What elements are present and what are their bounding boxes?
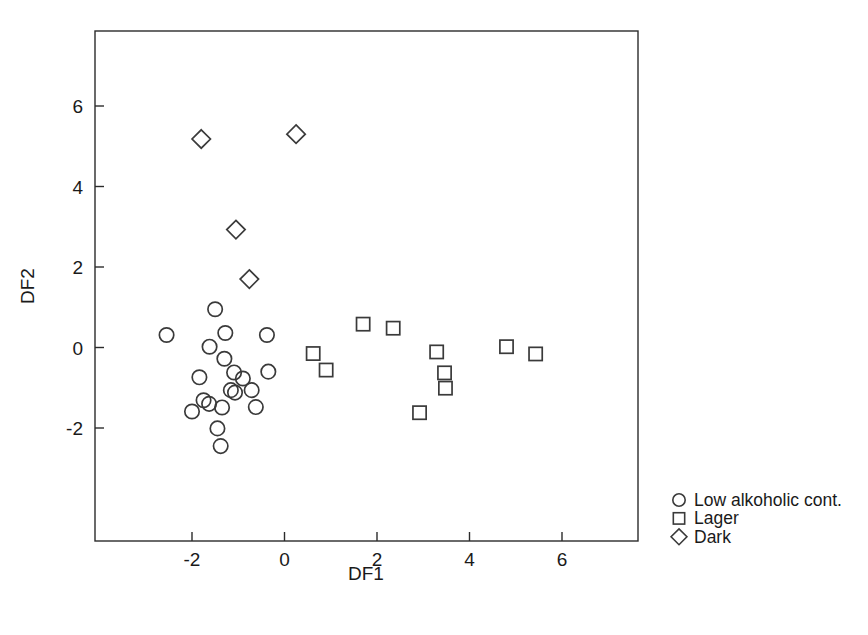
x-axis-ticks <box>192 532 562 541</box>
data-point <box>287 125 305 143</box>
plot-canvas: -20246 -20246 DF1 DF2 Low alkoholic cont… <box>0 0 868 635</box>
data-point <box>217 352 231 366</box>
series-diamond <box>192 125 305 288</box>
data-point <box>202 339 216 353</box>
legend-label: Dark <box>694 527 731 547</box>
data-point <box>260 328 274 342</box>
y-tick-label-0: 0 <box>72 338 83 359</box>
y-tick-label--2: -2 <box>66 418 83 439</box>
y-tick-label-6: 6 <box>72 96 83 117</box>
data-point <box>439 382 452 395</box>
data-point <box>228 385 242 399</box>
y-tick-label-4: 4 <box>72 177 83 198</box>
y-axis-ticks <box>95 106 104 428</box>
data-point <box>208 302 222 316</box>
x-tick-label-4: 4 <box>464 549 475 570</box>
data-point <box>240 270 258 288</box>
x-tick-label--2: -2 <box>184 549 201 570</box>
data-point <box>529 347 542 360</box>
legend-label: Low alkoholic cont. <box>694 490 842 510</box>
data-point <box>192 370 206 384</box>
data-point <box>430 345 443 358</box>
data-point <box>244 383 258 397</box>
data-point <box>357 318 370 331</box>
data-point <box>438 366 451 379</box>
x-axis-title: DF1 <box>348 563 384 584</box>
data-point <box>185 404 199 418</box>
plot-frame <box>95 31 638 541</box>
data-point-markers <box>159 125 542 453</box>
data-point <box>227 220 245 238</box>
legend-marker-square <box>673 513 684 524</box>
data-point <box>387 322 400 335</box>
data-point <box>210 421 224 435</box>
y-axis-tick-labels: -20246 <box>66 96 83 439</box>
data-point <box>218 326 232 340</box>
x-tick-label-6: 6 <box>557 549 568 570</box>
data-point <box>261 364 275 378</box>
legend-marker-circle <box>673 494 685 506</box>
data-point <box>249 400 263 414</box>
series-square <box>307 318 543 420</box>
data-point <box>413 406 426 419</box>
data-point <box>159 328 173 342</box>
data-point <box>500 340 513 353</box>
scatter-plot-figure: -20246 -20246 DF1 DF2 Low alkoholic cont… <box>0 0 868 635</box>
data-point <box>192 130 210 148</box>
y-axis-title: DF2 <box>17 268 38 304</box>
data-point <box>320 363 333 376</box>
data-point <box>307 347 320 360</box>
x-tick-label-0: 0 <box>279 549 290 570</box>
data-point <box>213 439 227 453</box>
data-point <box>215 400 229 414</box>
legend-label: Lager <box>694 508 739 528</box>
legend-marker-diamond <box>671 529 687 545</box>
y-tick-label-2: 2 <box>72 257 83 278</box>
series-circle <box>159 302 275 453</box>
legend: Low alkoholic cont.LagerDark <box>671 490 842 547</box>
